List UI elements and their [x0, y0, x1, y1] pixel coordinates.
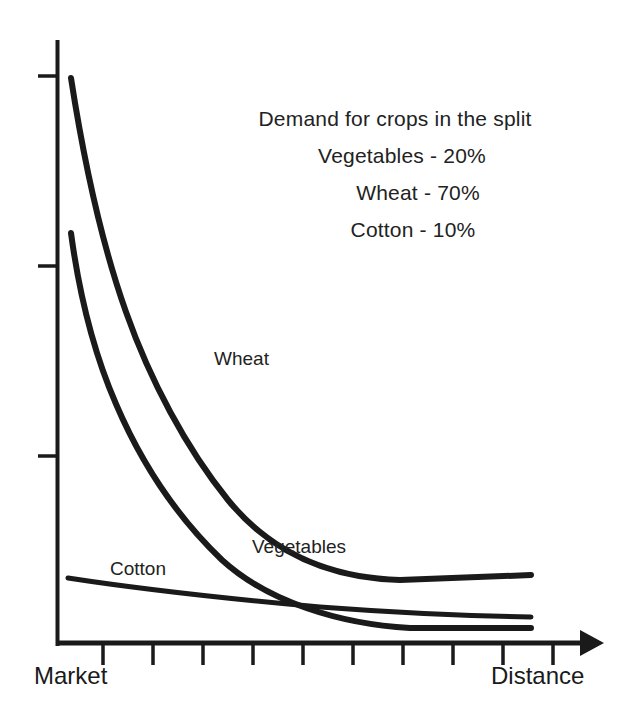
annotation-cotton-share: Cotton - 10%	[190, 211, 600, 248]
annotation-vegetables-share: Vegetables - 20%	[190, 137, 600, 174]
demand-split-annotation: Demand for crops in the split Vegetables…	[190, 100, 600, 248]
series-label-wheat: Wheat	[214, 348, 269, 370]
x-axis-end-label: Distance	[491, 662, 584, 690]
series-label-cotton: Cotton	[110, 558, 166, 580]
x-axis-origin-label: Market	[34, 662, 107, 690]
series-label-vegetables: Vegetables	[252, 536, 346, 558]
annotation-wheat-share: Wheat - 70%	[190, 174, 600, 211]
annotation-title: Demand for crops in the split	[190, 100, 600, 137]
